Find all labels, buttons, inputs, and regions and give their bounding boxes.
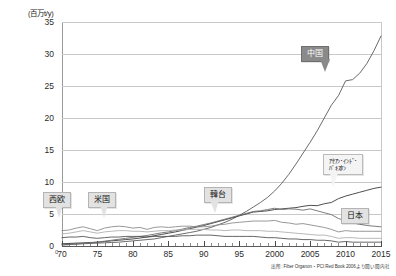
callout-usa-tail bbox=[100, 205, 108, 218]
callout-china: 中国 bbox=[301, 46, 329, 62]
callout-asean-tail bbox=[330, 173, 338, 187]
chart-container: (百万t/y) 05101520253035 70758085909520002… bbox=[0, 0, 396, 276]
callout-china-tail bbox=[320, 59, 330, 72]
callout-korea-taiwan-tail bbox=[210, 200, 219, 213]
callout-west-europe: 西欧 bbox=[43, 192, 71, 208]
callout-west-europe-tail bbox=[55, 205, 63, 218]
callout-asean-label-line1: ｱｾｱﾝ･ｲﾝﾄﾞ･ bbox=[329, 157, 357, 164]
series-lines bbox=[0, 0, 396, 276]
series-line-中国 bbox=[62, 36, 381, 245]
callout-china-label: 中国 bbox=[307, 49, 323, 58]
series-line-韓台 bbox=[62, 208, 381, 245]
callout-korea-taiwan-label: 韓台 bbox=[210, 190, 226, 199]
callout-usa: 米国 bbox=[88, 192, 116, 208]
callout-korea-taiwan: 韓台 bbox=[204, 187, 232, 203]
callout-usa-label: 米国 bbox=[94, 195, 110, 204]
callout-asean-india-pakistan: ｱｾｱﾝ･ｲﾝﾄﾞ･ ﾊﾟｷｽﾀﾝ bbox=[323, 154, 363, 175]
source-note: 出所: Fiber Organon・PCI Red Book 2006より聞い聞… bbox=[271, 263, 390, 269]
callout-asean-label-line2: ﾊﾟｷｽﾀﾝ bbox=[329, 164, 357, 171]
callout-west-europe-label: 西欧 bbox=[49, 195, 65, 204]
callout-japan-label: 日本 bbox=[347, 211, 363, 220]
callout-japan: 日本 bbox=[341, 208, 369, 224]
